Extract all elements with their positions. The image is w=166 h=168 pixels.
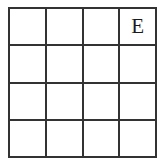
grid-cell-r2c2[interactable] bbox=[47, 46, 84, 83]
grid-cell-r4c3[interactable] bbox=[84, 121, 121, 158]
grid-cell-r4c2[interactable] bbox=[47, 121, 84, 158]
grid-cell-r4c4[interactable] bbox=[120, 121, 157, 158]
grid-cell-r4c1[interactable] bbox=[10, 121, 47, 158]
grid-cell-r1c2[interactable] bbox=[47, 9, 84, 46]
grid-4x4: E bbox=[8, 7, 157, 158]
figure-canvas: E bbox=[0, 0, 166, 168]
grid-cell-r3c4[interactable] bbox=[120, 84, 157, 121]
grid-cell-r1c3[interactable] bbox=[84, 9, 121, 46]
grid-cell-r3c2[interactable] bbox=[47, 84, 84, 121]
grid-cell-r2c1[interactable] bbox=[10, 46, 47, 83]
grid-cell-r2c4[interactable] bbox=[120, 46, 157, 83]
grid-cell-label-e: E bbox=[131, 16, 144, 37]
grid-cell-r1c1[interactable] bbox=[10, 9, 47, 46]
grid-cell-r1c4[interactable]: E bbox=[120, 9, 157, 46]
grid-cell-r3c3[interactable] bbox=[84, 84, 121, 121]
grid-cell-r2c3[interactable] bbox=[84, 46, 121, 83]
grid-cell-r3c1[interactable] bbox=[10, 84, 47, 121]
